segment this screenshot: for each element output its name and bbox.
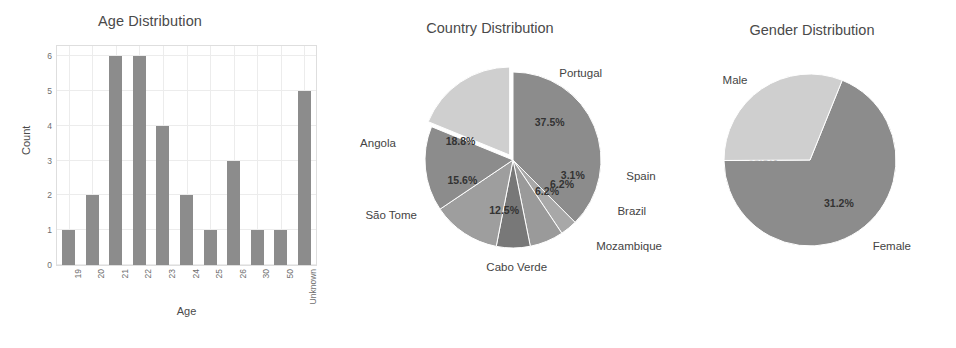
country-pie: 37.5%Portugal3.1%Spain6.2%Brazil6.2%Moza…: [330, 0, 660, 348]
figure-three-charts: Age Distribution Count 0123456 192021222…: [0, 0, 956, 348]
y-tick-label: 5: [47, 86, 52, 96]
bar: [62, 230, 75, 265]
x-tick-label: 20: [96, 269, 106, 278]
pie-slice-label: Brazil: [617, 205, 646, 217]
country-distribution-chart: Country Distribution 37.5%Portugal3.1%Sp…: [330, 0, 660, 348]
y-axis-label: Count: [20, 126, 32, 155]
x-tick-label: 30: [261, 269, 271, 278]
x-tick-label: Unknown: [308, 269, 318, 304]
x-tick-label: 50: [285, 269, 295, 278]
x-tick-label: 26: [238, 269, 248, 278]
bar: [204, 230, 217, 265]
pie-slice-label: São Tome: [365, 209, 417, 221]
pie-percent-label: 31.2%: [824, 197, 854, 209]
x-tick-label: 23: [167, 269, 177, 278]
pie-percent-label: 12.5%: [489, 204, 519, 216]
y-tick-label: 6: [47, 51, 52, 61]
pie-percent-label: 6.2%: [535, 185, 560, 197]
gender-distribution-chart: Gender Distribution 68.8%Male31.2%Female: [660, 0, 956, 348]
page-title: Age Distribution: [0, 13, 300, 29]
bar: [274, 230, 287, 265]
pie-slice-label: Angola: [360, 137, 396, 149]
pie-slice-label: Spain: [626, 170, 655, 182]
bar: [133, 56, 146, 265]
pie-slice-label: Mozambique: [596, 240, 662, 252]
bar: [156, 126, 169, 265]
bar-plot-area: 0123456 19202122232425263050Unknown: [56, 45, 317, 266]
y-tick-label: 1: [47, 225, 52, 235]
y-tick-label: 2: [47, 190, 52, 200]
x-tick-label: 24: [191, 269, 201, 278]
bar: [227, 161, 240, 265]
y-tick-label: 4: [47, 121, 52, 131]
bar-series: [57, 46, 316, 265]
bar: [86, 195, 99, 265]
x-tick-label: 21: [120, 269, 130, 278]
age-distribution-chart: Age Distribution Count 0123456 192021222…: [0, 0, 330, 348]
bar: [251, 230, 264, 265]
pie-slice-label: Portugal: [559, 67, 602, 79]
x-tick-label: 19: [73, 269, 83, 278]
y-tick-label: 0: [47, 260, 52, 270]
pie-percent-label: 18.8%: [446, 135, 476, 147]
bar: [180, 195, 193, 265]
bar: [109, 56, 122, 265]
pie-percent-label: 37.5%: [535, 116, 565, 128]
pie-slice-label: Male: [723, 74, 748, 86]
x-axis-label: Age: [56, 305, 317, 317]
pie-percent-label: 15.6%: [448, 174, 478, 186]
y-tick-label: 3: [47, 156, 52, 166]
gender-pie: 68.8%Male31.2%Female: [660, 0, 956, 348]
x-tick-label: 22: [143, 269, 153, 278]
x-tick-label: 25: [214, 269, 224, 278]
bar: [298, 91, 311, 265]
pie-slice-label: Cabo Verde: [486, 261, 547, 273]
pie-slice-label: Female: [873, 240, 911, 252]
